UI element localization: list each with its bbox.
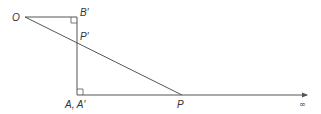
- label-o: O: [12, 12, 20, 23]
- right-angle-marker-b-prime: [71, 17, 77, 23]
- right-angle-marker-a: [77, 89, 83, 95]
- diagram-canvas: O B′ P′ A, A′ P ∞: [0, 0, 321, 114]
- label-a-a-prime: A, A′: [64, 99, 87, 110]
- label-b-prime: B′: [80, 7, 90, 18]
- label-p: P: [177, 99, 184, 110]
- label-infinity: ∞: [299, 100, 306, 109]
- label-p-prime: P′: [80, 31, 90, 42]
- segment-o-p: [25, 17, 182, 95]
